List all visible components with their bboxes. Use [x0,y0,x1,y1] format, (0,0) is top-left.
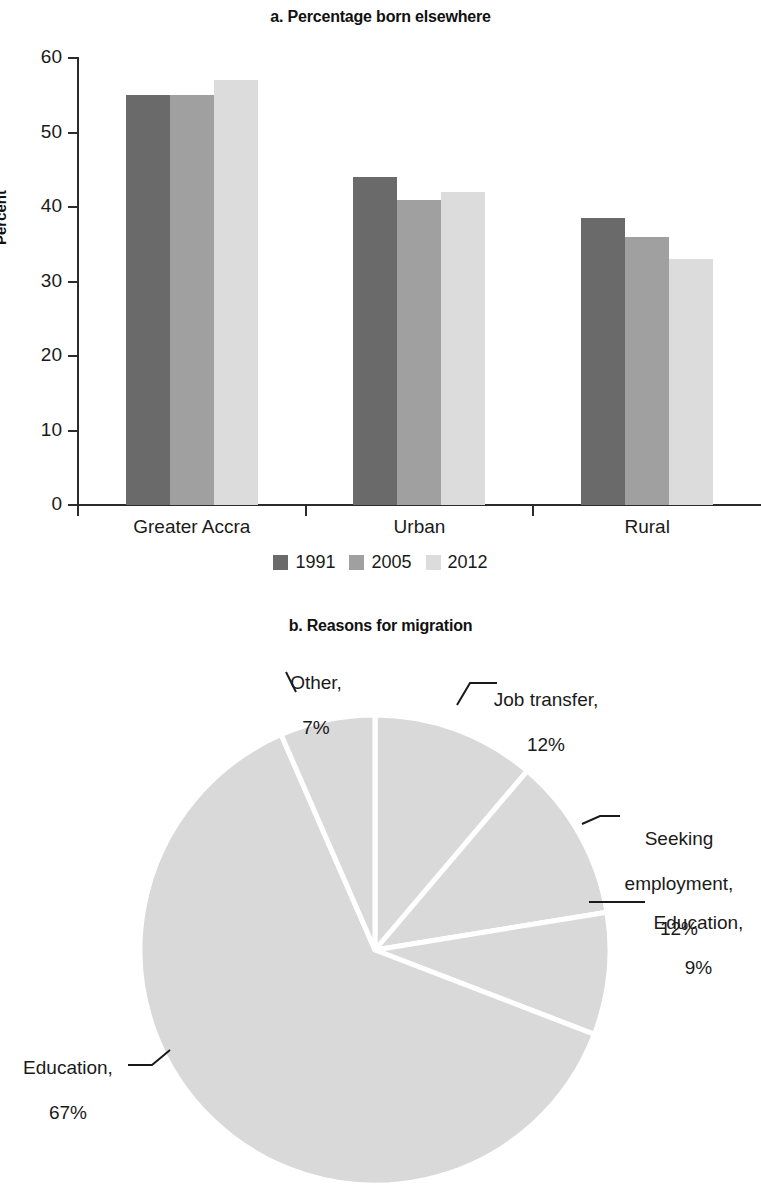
legend-swatch-1991 [273,555,288,570]
bar-group [533,58,761,505]
bar-group [306,58,534,505]
y-tick-label-40: 40 [0,195,62,217]
pie-label-job-transfer-line1: Job transfer, [466,689,626,711]
legend-swatch-2005 [349,555,364,570]
pie-chart-panel: b. Reasons for migration Other, 7% Job t… [0,595,761,1192]
bar-chart-panel: a. Percentage born elsewhere Percent 605… [0,0,761,595]
pie-label-education-9-line1: Education, [636,912,761,934]
bar-1991-greater-accra [126,95,170,505]
y-tick-label-60: 60 [0,46,62,68]
y-tick-50 [68,132,78,134]
legend-label-2005: 2005 [371,552,411,573]
y-tick-40 [68,206,78,208]
pie-label-education-67: Education, 67% [8,1035,128,1147]
pie-label-job-transfer: Job transfer, 12% [466,667,626,779]
y-tick-20 [68,355,78,357]
x-tick [77,504,79,516]
pie-label-other-line1: Other, [256,672,376,694]
y-tick-30 [68,281,78,283]
x-axis-label-greater-accra: Greater Accra [78,516,306,538]
pie-label-education-67-line2: 67% [8,1102,128,1124]
legend-item-1991: 1991 [273,552,335,573]
pie-label-seeking-employment-line1: Seeking [600,828,758,850]
y-tick-label-50: 50 [0,121,62,143]
pie-label-other-line2: 7% [256,717,376,739]
bar-2012-greater-accra [214,80,258,505]
bar-group [78,58,306,505]
x-tick [305,504,307,516]
y-tick-label-30: 30 [0,270,62,292]
x-axis-label-urban: Urban [306,516,534,538]
bar-plot-area [78,58,761,505]
pie-label-education-9-line2: 9% [636,957,761,979]
legend-item-2012: 2012 [426,552,488,573]
y-tick-label-10: 10 [0,419,62,441]
pie-label-job-transfer-line2: 12% [466,734,626,756]
legend-label-1991: 1991 [295,552,335,573]
pie-label-education-67-line1: Education, [8,1057,128,1079]
bar-2012-rural [669,259,713,505]
pie-slices [140,715,610,1185]
bar-1991-rural [581,218,625,505]
y-tick-60 [68,57,78,59]
bar-chart-legend: 199120052012 [0,552,761,573]
bar-2005-greater-accra [170,95,214,505]
bar-2005-urban [397,200,441,505]
panel-a-title: a. Percentage born elsewhere [0,8,761,26]
legend-item-2005: 2005 [349,552,411,573]
y-tick-10 [68,430,78,432]
legend-label-2012: 2012 [448,552,488,573]
y-tick-label-0: 0 [0,493,62,515]
bar-2005-rural [625,237,669,505]
bar-1991-urban [353,177,397,505]
x-axis-label-rural: Rural [533,516,761,538]
legend-swatch-2012 [426,555,441,570]
pie-label-other: Other, 7% [256,650,376,762]
x-tick [532,504,534,516]
pie-label-education-9: Education, 9% [636,890,761,1002]
y-tick-label-20: 20 [0,344,62,366]
bar-2012-urban [441,192,485,505]
